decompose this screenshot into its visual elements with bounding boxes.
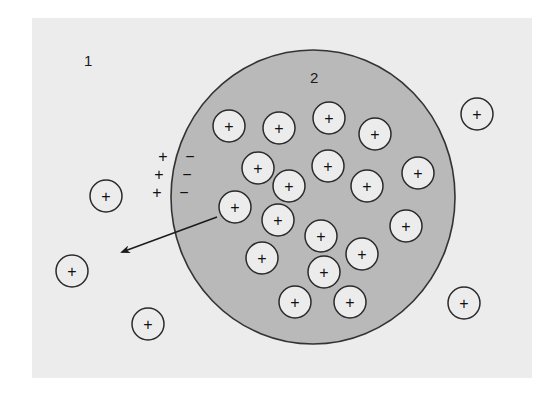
ion-diffusion-diagram: 1 2 +−+−+− ++++++++++++++++++ +++++ xyxy=(0,0,554,400)
plus-icon: + xyxy=(345,294,354,311)
plus-icon: + xyxy=(401,218,410,235)
cation-inside: + xyxy=(305,220,337,252)
plus-icon: + xyxy=(319,264,328,281)
cation-inside: + xyxy=(273,170,305,202)
plus-icon: + xyxy=(143,316,152,333)
plus-icon: + xyxy=(101,188,110,205)
plus-icon: + xyxy=(230,199,239,216)
cation-inside: + xyxy=(359,118,391,150)
cation-inside: + xyxy=(213,110,245,142)
cation-inside: + xyxy=(351,170,383,202)
negative-charge-icon: − xyxy=(179,184,188,201)
cation-outside: + xyxy=(56,255,88,287)
positive-charge-icon: + xyxy=(152,184,161,201)
plus-icon: + xyxy=(284,178,293,195)
cation-inside: + xyxy=(313,102,345,134)
cation-inside: + xyxy=(334,286,366,318)
cell-compartment xyxy=(171,50,455,344)
cation-outside: + xyxy=(90,180,122,212)
plus-icon: + xyxy=(224,118,233,135)
cation-inside: + xyxy=(262,204,294,236)
plus-icon: + xyxy=(274,120,283,137)
cation-inside: + xyxy=(219,191,251,223)
plus-icon: + xyxy=(316,228,325,245)
plus-icon: + xyxy=(67,263,76,280)
cation-inside: + xyxy=(308,256,340,288)
cation-inside: + xyxy=(246,242,278,274)
plus-icon: + xyxy=(290,294,299,311)
cation-outside: + xyxy=(461,98,493,130)
plus-icon: + xyxy=(324,110,333,127)
cation-inside: + xyxy=(242,152,274,184)
cation-inside: + xyxy=(346,238,378,270)
cation-outside: + xyxy=(448,287,480,319)
plus-icon: + xyxy=(357,246,366,263)
positive-charge-icon: + xyxy=(154,166,163,183)
plus-icon: + xyxy=(370,126,379,143)
compartment-label-inside: 2 xyxy=(310,69,318,86)
negative-charge-icon: − xyxy=(185,148,194,165)
compartment-label-outside: 1 xyxy=(84,52,92,69)
cation-inside: + xyxy=(390,210,422,242)
plus-icon: + xyxy=(253,160,262,177)
plus-icon: + xyxy=(362,178,371,195)
cation-inside: + xyxy=(263,112,295,144)
plus-icon: + xyxy=(472,106,481,123)
plus-icon: + xyxy=(459,295,468,312)
negative-charge-icon: − xyxy=(182,166,191,183)
plus-icon: + xyxy=(273,212,282,229)
positive-charge-icon: + xyxy=(158,148,167,165)
cation-outside: + xyxy=(132,308,164,340)
plus-icon: + xyxy=(257,250,266,267)
cation-inside: + xyxy=(312,150,344,182)
plus-icon: + xyxy=(413,165,422,182)
cation-inside: + xyxy=(402,157,434,189)
cation-inside: + xyxy=(279,286,311,318)
plus-icon: + xyxy=(323,158,332,175)
